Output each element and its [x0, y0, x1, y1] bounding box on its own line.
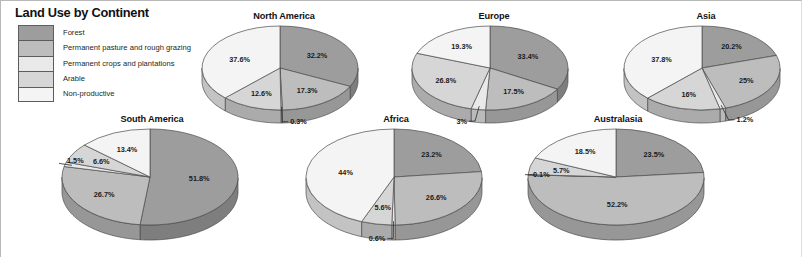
slice-value-label: 1.5%	[67, 156, 84, 165]
pie-svg: 23.2%26.6%0.6%5.6%44%	[303, 125, 485, 246]
slice-value-label: 12.6%	[251, 89, 272, 98]
slice-value-label: 18.5%	[575, 147, 596, 156]
legend-swatch	[18, 40, 54, 55]
slice-value-label: 5.7%	[553, 166, 570, 175]
page-title: Land Use by Continent	[15, 5, 149, 20]
pie-title: South America	[59, 114, 245, 124]
slice-value-label: 0.6%	[369, 234, 386, 243]
legend-swatch	[18, 87, 54, 102]
slice-value-label: 13.4%	[117, 145, 138, 154]
slice-value-label: 1.2%	[737, 115, 754, 124]
pie-title: Asia	[621, 11, 791, 21]
legend-label: Non-productive	[63, 90, 115, 98]
slice-value-label: 32.2%	[307, 51, 328, 60]
pie-svg: 20.2%25%1.2%16%37.8%	[621, 22, 783, 129]
slice-value-label: 20.2%	[721, 42, 742, 51]
slice-value-label: 19.3%	[451, 42, 472, 51]
slice-value-label: 17.5%	[503, 87, 524, 96]
pie-slice-side	[720, 108, 726, 122]
pie-svg: 32.2%17.3%0.3%12.6%37.6%	[199, 22, 361, 129]
slice-value-label: 26.6%	[426, 193, 447, 202]
slice-value-label: 26.7%	[94, 190, 115, 199]
slice-value-label: 26.8%	[435, 76, 456, 85]
legend-label: Forest	[63, 29, 85, 37]
slice-value-label: 37.8%	[651, 55, 672, 64]
legend-item: Non-productive	[18, 87, 198, 102]
legend-item: Forest	[18, 25, 198, 40]
legend-label: Permanent pasture and rough grazing	[63, 44, 191, 52]
slice-value-label: 52.2%	[607, 200, 628, 209]
pie-title: Australasia	[525, 114, 711, 124]
pie-title: Europe	[409, 11, 579, 21]
legend-label: Arable	[63, 75, 85, 83]
slice-value-label: 51.8%	[189, 174, 210, 183]
slice-value-label: 23.5%	[644, 150, 665, 159]
legend-item: Arable	[18, 71, 198, 86]
pie-title: Africa	[303, 114, 489, 124]
legend-item: Permanent pasture and rough grazing	[18, 40, 198, 55]
slice-value-label: 6.6%	[93, 157, 110, 166]
slice-value-label: 25%	[739, 76, 754, 85]
pie-svg: 51.8%26.7%1.5%6.6%13.4%	[59, 125, 241, 246]
slice-value-label: 33.4%	[518, 52, 539, 61]
slice-value-label: 0.1%	[533, 170, 550, 179]
slice-value-label: 5.6%	[374, 203, 391, 212]
legend-swatch	[18, 25, 54, 40]
legend: ForestPermanent pasture and rough grazin…	[18, 25, 198, 102]
legend-item: Permanent crops and plantations	[18, 56, 198, 71]
legend-label: Permanent crops and plantations	[63, 60, 174, 68]
pie-svg: 33.4%17.5%3%26.8%19.3%	[409, 22, 571, 129]
slice-value-label: 16%	[681, 90, 696, 99]
slice-value-label: 44%	[338, 168, 353, 177]
pie-svg: 23.5%52.2%0.1%5.7%18.5%	[525, 125, 707, 246]
pie-title: North America	[199, 11, 369, 21]
slice-value-label: 37.6%	[229, 55, 250, 64]
legend-swatch	[18, 56, 54, 71]
land-use-figure: Land Use by Continent ForestPermanent pa…	[0, 0, 802, 257]
slice-value-label: 17.3%	[297, 86, 318, 95]
legend-swatch	[18, 71, 54, 86]
slice-value-label: 23.2%	[421, 150, 442, 159]
